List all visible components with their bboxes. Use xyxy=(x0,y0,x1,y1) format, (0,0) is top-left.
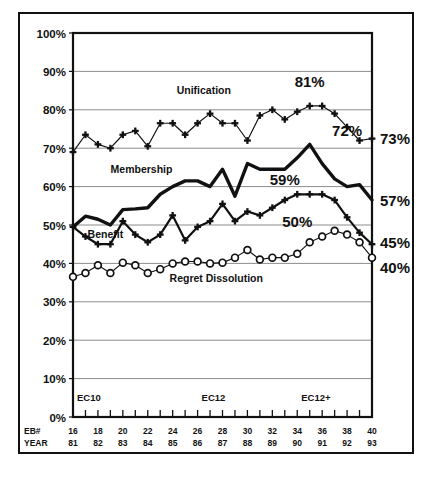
data-point-marker xyxy=(306,191,313,198)
series-line xyxy=(73,144,372,227)
y-axis-tick-10%: 10% xyxy=(43,373,66,385)
x-tick-label-year-88: 88 xyxy=(243,438,253,448)
x-tick-label-year-91: 91 xyxy=(317,438,327,448)
value-callout-50pct: 50% xyxy=(282,213,312,230)
y-axis-tick-30%: 30% xyxy=(43,296,66,308)
series-name-label-membership: Membership xyxy=(111,163,173,175)
x-tick-label-year-89: 89 xyxy=(268,438,278,448)
data-point-marker xyxy=(107,270,114,277)
data-point-marker xyxy=(169,260,176,267)
x-tick-label-year-90: 90 xyxy=(293,438,303,448)
y-axis-tick-20%: 20% xyxy=(43,335,66,347)
value-callout-59pct: 59% xyxy=(270,171,300,188)
x-tick-label-eb-24: 24 xyxy=(168,426,178,436)
data-point-marker xyxy=(344,231,351,238)
series-unification xyxy=(70,103,376,156)
era-label-EC12+: EC12+ xyxy=(301,392,331,403)
data-point-marker xyxy=(306,239,313,246)
data-point-marker xyxy=(144,270,151,277)
x-tick-label-eb-32: 32 xyxy=(268,426,278,436)
data-point-marker xyxy=(269,254,276,261)
x-tick-label-eb-34: 34 xyxy=(293,426,303,436)
chart-figure: 0%10%20%30%40%50%60%70%80%90%100%EC10EC1… xyxy=(0,0,432,477)
right-end-label-73pct: 73% xyxy=(380,130,410,147)
era-label-EC10: EC10 xyxy=(77,392,101,403)
x-tick-label-year-81: 81 xyxy=(68,438,78,448)
y-axis-tick-50%: 50% xyxy=(43,220,66,232)
data-point-marker xyxy=(244,247,251,254)
x-tick-label-eb-36: 36 xyxy=(317,426,327,436)
data-point-marker xyxy=(157,266,164,273)
y-axis-tick-80%: 80% xyxy=(43,104,66,116)
data-point-marker xyxy=(232,254,239,261)
x-tick-label-year-84: 84 xyxy=(143,438,153,448)
x-tick-label-eb-28: 28 xyxy=(218,426,228,436)
x-tick-label-year-86: 86 xyxy=(193,438,203,448)
x-tick-label-year-82: 82 xyxy=(93,438,103,448)
data-point-marker xyxy=(294,191,301,198)
y-axis-tick-90%: 90% xyxy=(43,66,66,78)
y-axis-tick-0%: 0% xyxy=(49,412,66,424)
data-point-marker xyxy=(132,262,139,269)
data-point-marker xyxy=(369,254,376,261)
data-point-marker xyxy=(219,259,226,266)
data-point-marker xyxy=(369,135,376,142)
x-tick-label-eb-16: 16 xyxy=(68,426,78,436)
x-tick-label-year-92: 92 xyxy=(342,438,352,448)
series-line xyxy=(73,106,372,152)
series-name-label-unification: Unification xyxy=(177,84,231,96)
era-label-EC12: EC12 xyxy=(202,392,226,403)
y-axis-tick-60%: 60% xyxy=(43,181,66,193)
x-axis-row-header-eb: EB# xyxy=(24,426,41,436)
x-tick-label-eb-20: 20 xyxy=(118,426,128,436)
x-tick-label-eb-18: 18 xyxy=(93,426,103,436)
data-point-marker xyxy=(319,233,326,240)
x-axis-row-header-year: YEAR xyxy=(24,438,48,448)
x-tick-label-year-87: 87 xyxy=(218,438,228,448)
x-tick-label-year-83: 83 xyxy=(118,438,128,448)
x-tick-label-eb-30: 30 xyxy=(243,426,253,436)
data-point-marker xyxy=(331,227,338,234)
x-tick-label-eb-22: 22 xyxy=(143,426,153,436)
data-point-marker xyxy=(119,259,126,266)
data-point-marker xyxy=(319,103,326,110)
series-membership xyxy=(73,144,372,227)
data-point-marker xyxy=(319,191,326,198)
data-point-marker xyxy=(95,262,102,269)
x-tick-label-eb-40: 40 xyxy=(367,426,377,436)
right-end-label-57pct: 57% xyxy=(380,192,410,209)
x-tick-label-eb-38: 38 xyxy=(342,426,352,436)
series-name-label-regret-dissolution: Regret Dissolution xyxy=(170,272,263,284)
y-axis-tick-100%: 100% xyxy=(37,28,66,40)
data-point-marker xyxy=(182,258,189,265)
data-point-marker xyxy=(306,103,313,110)
x-tick-label-eb-26: 26 xyxy=(193,426,203,436)
right-end-label-40pct: 40% xyxy=(380,259,410,276)
x-tick-label-year-93: 93 xyxy=(367,438,377,448)
value-callout-72pct: 72% xyxy=(332,122,362,139)
line-chart: 0%10%20%30%40%50%60%70%80%90%100%EC10EC1… xyxy=(0,0,432,477)
y-axis-tick-70%: 70% xyxy=(43,143,66,155)
data-point-marker xyxy=(256,256,263,263)
data-point-marker xyxy=(281,254,288,261)
data-point-marker xyxy=(70,273,77,280)
data-point-marker xyxy=(157,120,164,127)
y-axis-tick-40%: 40% xyxy=(43,258,66,270)
data-point-marker xyxy=(207,260,214,267)
value-callout-81pct: 81% xyxy=(295,73,325,90)
data-point-marker xyxy=(356,239,363,246)
right-end-label-45pct: 45% xyxy=(380,234,410,251)
data-point-marker xyxy=(256,112,263,119)
x-tick-label-year-85: 85 xyxy=(168,438,178,448)
series-name-label-benefit: Benefit xyxy=(88,228,124,240)
data-point-marker xyxy=(194,258,201,265)
data-point-marker xyxy=(82,270,89,277)
data-point-marker xyxy=(294,250,301,257)
